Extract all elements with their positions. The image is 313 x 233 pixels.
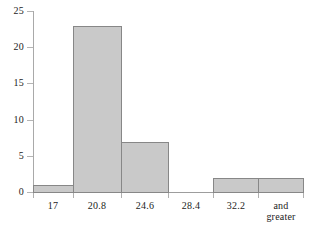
x-axis-label-and-greater: and greater <box>256 200 306 222</box>
y-axis-label-0: 0 <box>0 187 24 197</box>
x-axis-tick <box>73 193 74 198</box>
histogram-bar-24-6 <box>121 142 169 193</box>
histogram-bar-28-4 <box>168 192 214 193</box>
y-axis-tick <box>27 156 33 157</box>
histogram-bar-32-2 <box>213 178 259 193</box>
y-axis-label-25: 25 <box>0 6 24 16</box>
x-axis-tick <box>213 193 214 198</box>
x-axis-tick <box>303 193 304 198</box>
x-axis-label-20-8: 20.8 <box>72 200 122 211</box>
y-axis-label-20: 20 <box>0 42 24 52</box>
x-axis-tick <box>33 193 34 198</box>
y-axis-tick <box>27 11 33 12</box>
x-axis-tick <box>168 193 169 198</box>
histogram-bar-17 <box>33 185 74 193</box>
x-axis-label-28-4: 28.4 <box>166 200 216 211</box>
y-axis-tick <box>27 83 33 84</box>
histogram-bar-and-greater <box>258 178 304 193</box>
x-axis-tick <box>121 193 122 198</box>
histogram-chart: 25 20 15 10 5 0 17 20.8 24.6 28.4 32.2 a… <box>0 0 313 233</box>
y-axis-label-15: 15 <box>0 78 24 88</box>
histogram-bar-20-8 <box>73 26 122 193</box>
x-axis-tick <box>258 193 259 198</box>
y-axis-label-10: 10 <box>0 115 24 125</box>
y-axis-tick <box>27 120 33 121</box>
x-axis-label-32-2: 32.2 <box>211 200 261 211</box>
x-axis-label-17: 17 <box>28 200 78 211</box>
y-axis-tick <box>27 47 33 48</box>
x-axis-label-24-6: 24.6 <box>120 200 170 211</box>
y-axis-label-5: 5 <box>0 151 24 161</box>
y-axis-line <box>33 11 34 193</box>
